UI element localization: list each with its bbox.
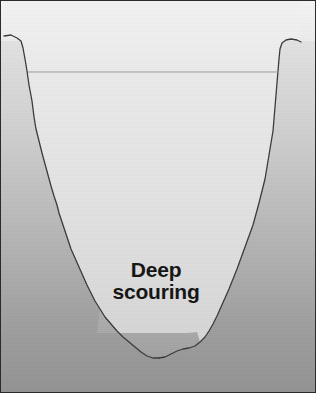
cross-section-illustration xyxy=(1,1,316,393)
figure-root: Deep scouring xyxy=(0,0,327,405)
diagram-plate: Deep scouring xyxy=(0,0,316,393)
